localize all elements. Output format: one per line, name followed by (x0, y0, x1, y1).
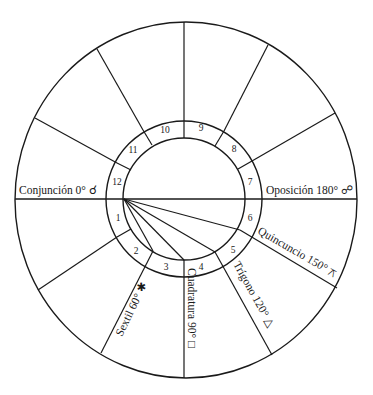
house-numbers: 1 2 3 4 5 6 7 8 9 10 11 12 (112, 123, 252, 272)
label-sextil: Sextil 60° ✱ (113, 280, 150, 338)
house-11: 11 (128, 145, 137, 155)
house-6: 6 (248, 213, 253, 223)
label-trigono: Trígono 120° △ (230, 259, 277, 329)
house-8: 8 (232, 144, 237, 154)
label-quincuncio: Quincuncio 150° ⚻ (256, 224, 339, 279)
house-2: 2 (134, 246, 139, 256)
house-12: 12 (112, 177, 122, 187)
aspect-line-quincuncio (124, 199, 240, 230)
house-5: 5 (231, 245, 236, 255)
label-oposicion: Oposición 180° ☍ (266, 184, 353, 197)
outer-circle (15, 22, 357, 378)
label-conjuncion: Conjunción 0° ☌ (19, 184, 97, 197)
house-3: 3 (164, 262, 169, 272)
house-7: 7 (248, 177, 253, 187)
house-4: 4 (199, 262, 204, 272)
house-1: 1 (116, 213, 121, 223)
aspect-wheel-diagram: 1 2 3 4 5 6 7 8 9 10 11 12 Conjunción 0°… (0, 0, 373, 395)
aspect-line-trigono (124, 199, 215, 252)
label-cuadratura: Cuadratura 90° □ (186, 268, 198, 348)
house-10: 10 (160, 125, 170, 135)
house-9: 9 (199, 123, 204, 133)
